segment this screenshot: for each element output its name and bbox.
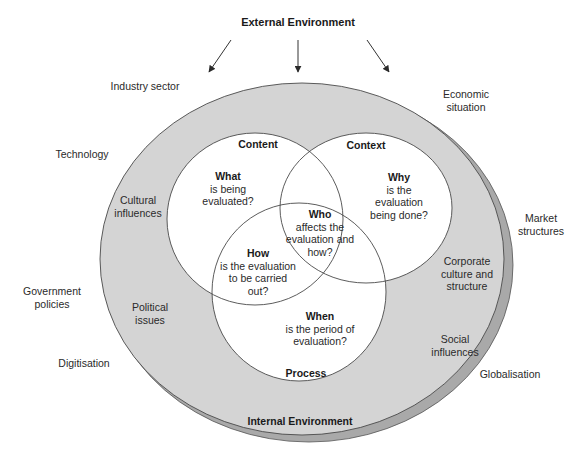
process-circle-label: Process [286,367,327,379]
market-factor-label: Market [525,212,557,224]
cultural-factor-label: Cultural [120,194,156,206]
arrow-right-icon [367,40,389,72]
how-question-text: out? [248,285,269,297]
economic-factor-label: Economic [443,88,489,100]
evaluation-framework-diagram: External Environment ContentContextProce… [0,0,579,462]
corporate-factor-label: culture and [441,268,493,280]
who-question-head: Who [309,208,332,220]
why-question-head: Why [388,171,410,183]
corporate-factor-label: Corporate [444,255,491,267]
how-question-text: to be carried [229,272,288,284]
political-factor-label: Political [132,301,168,313]
when-question-head: When [306,310,335,322]
market-factor-label: structures [518,225,564,237]
corporate-factor-label: structure [447,280,488,292]
economic-factor-label: situation [446,101,485,113]
how-question-text: is the evaluation [220,260,296,272]
government-factor-label: Government [23,285,81,297]
social-factor-label: influences [431,346,478,358]
why-question-text: evaluation [375,196,423,208]
technology-factor-label: Technology [55,148,109,160]
why-question-text: being done? [370,209,428,221]
what-question-text: evaluated? [202,195,254,207]
what-question-head: What [215,170,241,182]
who-question-text: how? [307,246,332,258]
external-environment-title: External Environment [241,16,355,28]
internal-environment-label: Internal Environment [247,415,353,427]
industry-factor-label: Industry sector [111,80,180,92]
why-question-text: is the [386,184,411,196]
when-question-text: evaluation? [293,335,347,347]
government-factor-label: policies [34,298,69,310]
arrow-left-icon [209,40,231,72]
arrows [209,40,389,72]
who-question-text: affects the [296,221,344,233]
how-question-head: How [247,247,270,259]
social-factor-label: Social [441,333,470,345]
context-circle-label: Context [346,139,386,151]
content-circle-label: Content [238,138,278,150]
who-question-text: evaluation and [286,233,354,245]
cultural-factor-label: influences [114,207,161,219]
globalisation-factor-label: Globalisation [480,368,541,380]
what-question-text: is being [210,183,246,195]
digitisation-factor-label: Digitisation [58,357,110,369]
when-question-text: is the period of [286,323,355,335]
political-factor-label: issues [135,314,165,326]
